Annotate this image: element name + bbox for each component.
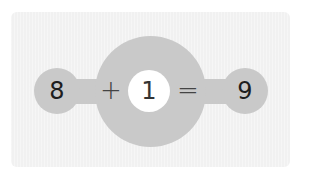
addend-number: 8	[49, 79, 64, 103]
sum-number: 9	[237, 79, 252, 103]
plus-sign: +	[100, 77, 122, 103]
sum-circle: 9	[222, 68, 268, 114]
answer-number: 1	[141, 77, 156, 105]
addend-circle: 8	[34, 68, 80, 114]
answer-circle[interactable]: 1	[128, 70, 170, 112]
equals-sign: =	[177, 77, 199, 103]
